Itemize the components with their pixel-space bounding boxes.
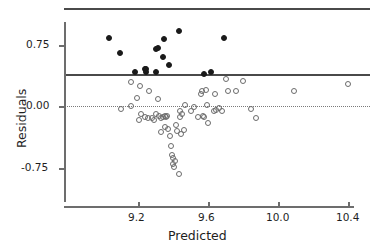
- data-point-open: [179, 111, 185, 117]
- data-point-open: [240, 78, 246, 84]
- data-point-filled: [201, 71, 207, 77]
- data-point-filled: [106, 35, 112, 41]
- xtick-label-1: 9.6: [198, 211, 215, 223]
- ytick-mark-1: [59, 106, 65, 108]
- xtick-mark-2: [278, 202, 280, 208]
- ytick-mark-0: [59, 45, 65, 47]
- data-point-open: [164, 113, 170, 119]
- data-point-open: [203, 87, 209, 93]
- xtick-mark-1: [208, 202, 210, 208]
- data-point-open: [155, 96, 161, 102]
- data-point-open: [182, 102, 188, 108]
- data-point-open: [128, 79, 134, 85]
- ytick-label-1: 0.00: [26, 99, 49, 111]
- data-point-filled: [155, 45, 161, 51]
- xtick-label-3: 10.4: [336, 211, 359, 223]
- xtick-label-2: 10.0: [266, 211, 289, 223]
- data-point-open: [219, 108, 225, 114]
- data-point-open: [201, 114, 207, 120]
- xtick-mark-3: [348, 202, 350, 208]
- data-point-filled: [208, 69, 214, 75]
- ytick-label-0: 0.75: [26, 38, 49, 50]
- data-point-open: [233, 88, 239, 94]
- x-axis-title: Predicted: [168, 228, 227, 243]
- data-point-filled: [160, 54, 166, 60]
- data-point-open: [345, 81, 351, 87]
- data-point-open: [191, 104, 197, 110]
- data-point-open: [181, 127, 187, 133]
- data-point-open: [136, 117, 142, 123]
- residuals-vs-predicted-plot: 0.75 0.00 -0.75 9.2 9.6 10.0 10.4 Predic…: [0, 0, 373, 249]
- data-point-filled: [161, 36, 167, 42]
- data-point-open: [165, 126, 171, 132]
- data-point-open: [137, 83, 143, 89]
- data-point-open: [212, 91, 218, 97]
- threshold-line: [64, 74, 370, 76]
- data-point-open: [134, 95, 140, 101]
- data-point-open: [146, 88, 152, 94]
- data-point-open: [205, 120, 211, 126]
- data-point-open: [128, 103, 134, 109]
- data-point-open: [225, 88, 231, 94]
- data-point-open: [171, 164, 177, 170]
- xtick-label-0: 9.2: [128, 211, 145, 223]
- data-point-open: [248, 106, 254, 112]
- data-point-filled: [176, 28, 182, 34]
- data-point-open: [172, 158, 178, 164]
- data-point-open: [118, 106, 124, 112]
- ytick-label-2: -0.75: [21, 161, 48, 173]
- data-point-open: [176, 171, 182, 177]
- data-point-filled: [221, 35, 227, 41]
- data-point-open: [223, 76, 229, 82]
- data-point-filled: [117, 50, 123, 56]
- ytick-mark-2: [59, 168, 65, 170]
- data-point-filled: [166, 62, 172, 68]
- data-point-open: [168, 143, 174, 149]
- y-axis-title: Residuals: [14, 89, 29, 148]
- data-point-open: [167, 133, 173, 139]
- upper-bound-line: [64, 8, 370, 10]
- residuals-axis: [64, 22, 66, 202]
- xtick-mark-0: [138, 202, 140, 208]
- data-point-open: [253, 115, 259, 121]
- data-point-filled: [143, 69, 149, 75]
- data-point-open: [291, 88, 297, 94]
